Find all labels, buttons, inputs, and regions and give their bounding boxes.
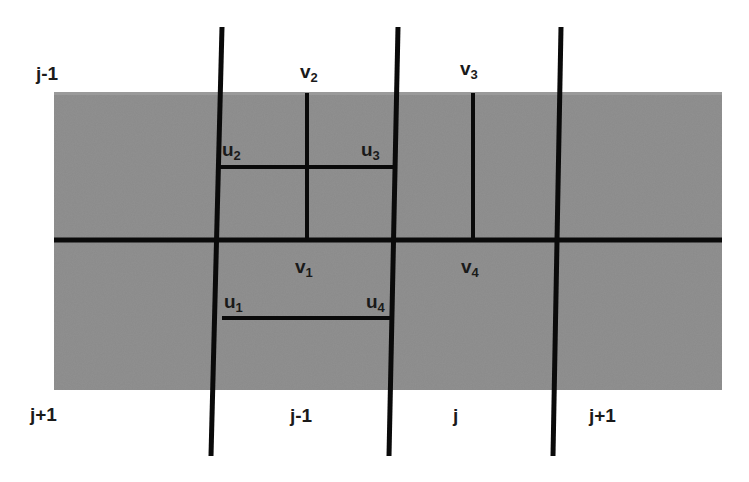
column-label-j-minus-1: j-1 (290, 406, 312, 425)
node-label-u1: u1 (224, 292, 243, 314)
node-label-u3: u3 (361, 140, 380, 162)
column-label-j-plus-1: j+1 (589, 406, 616, 425)
column-label-j: j (453, 406, 458, 425)
grid-lines (0, 0, 749, 482)
row-label-top: j-1 (36, 64, 58, 83)
node-label-v2: v2 (300, 62, 318, 84)
node-label-u4: u4 (366, 292, 385, 314)
node-label-v4: v4 (461, 257, 479, 279)
node-label-v1: v1 (295, 257, 313, 279)
row-label-bottom: j+1 (30, 405, 57, 424)
node-label-u2: u2 (222, 140, 241, 162)
node-label-v3: v3 (460, 59, 478, 81)
staggered-grid-diagram: j-1 j+1 j-1 j j+1 v2 v3 u2 u3 v1 v4 u1 u… (0, 0, 749, 482)
